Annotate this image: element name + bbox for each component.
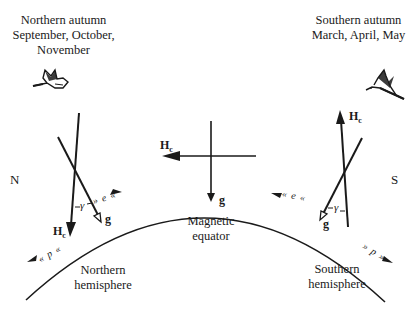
south-pole-label: S — [391, 172, 398, 187]
north-season-months-2: November — [6, 43, 121, 58]
northern-hemisphere-line2: hemisphere — [68, 278, 138, 293]
south-gamma-label: γ — [334, 200, 338, 215]
south-season-months: March, April, May — [306, 28, 411, 43]
southern-hemisphere-line1: Southern — [302, 262, 372, 277]
south-season-label: Southern autumn March, April, May — [306, 13, 411, 43]
north-hc-letter: H — [53, 224, 62, 238]
south-hc-label: Hc — [349, 109, 362, 128]
south-hc-arrowhead — [336, 110, 345, 124]
north-season-months-1: September, October, — [6, 28, 121, 43]
north-bird-icon — [33, 70, 68, 88]
magnetic-equator-label: Magnetic equator — [176, 214, 246, 244]
north-season-title: Northern autumn — [6, 13, 121, 28]
south-bird-icon — [366, 70, 404, 99]
north-hc-sub: c — [62, 231, 66, 240]
north-gamma-label: γ — [80, 198, 84, 213]
southern-hemisphere-label: Southern hemisphere — [302, 262, 372, 292]
north-season-label: Northern autumn September, October, Nove… — [6, 13, 121, 58]
southern-hemisphere-line2: hemisphere — [302, 277, 372, 292]
north-vectors — [58, 113, 101, 237]
north-g-label: g — [105, 212, 111, 227]
magnetic-equator-line2: equator — [176, 229, 246, 244]
north-p-wave-arrowhead — [27, 255, 37, 262]
equator-hc-sub: c — [169, 145, 173, 154]
north-g-arrowhead — [94, 213, 101, 222]
south-hc-letter: H — [349, 109, 358, 123]
equator-g-label: g — [219, 193, 225, 208]
north-hc-arrowhead — [66, 222, 76, 237]
north-pole-label: N — [10, 172, 19, 187]
northern-hemisphere-label: Northern hemisphere — [68, 263, 138, 293]
south-g-label: g — [323, 217, 329, 232]
south-hc-sub: c — [358, 116, 362, 125]
magnetic-inclination-diagram: Northern autumn September, October, Nove… — [0, 0, 415, 312]
northern-hemisphere-line1: Northern — [68, 263, 138, 278]
g-arrowhead-down — [207, 193, 215, 202]
equator-vectors — [162, 121, 256, 202]
equator-hc-letter: H — [160, 138, 169, 152]
south-season-title: Southern autumn — [306, 13, 411, 28]
equator-hc-label: Hc — [160, 138, 173, 157]
magnetic-equator-line1: Magnetic — [176, 214, 246, 229]
